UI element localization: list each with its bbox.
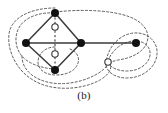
node-filled-right (132, 39, 140, 47)
node-filled-top (51, 9, 59, 17)
node-filled-bottom (51, 66, 59, 74)
figure-container: (b) (0, 0, 168, 113)
contour-outer-wide (9, 8, 111, 88)
node-filled-center (77, 39, 85, 47)
contour-right-inner (108, 41, 150, 71)
node-open-upper (52, 24, 58, 30)
node-filled-left (22, 39, 30, 47)
edge-left-top (26, 13, 55, 43)
figure-caption: (b) (0, 89, 168, 102)
filled-node-group (22, 9, 140, 74)
contour-right-outer (106, 33, 157, 78)
node-open-right (105, 59, 111, 65)
edge-top-center (55, 13, 81, 43)
contour-diamond-left (16, 13, 54, 69)
node-open-lower (52, 51, 58, 57)
